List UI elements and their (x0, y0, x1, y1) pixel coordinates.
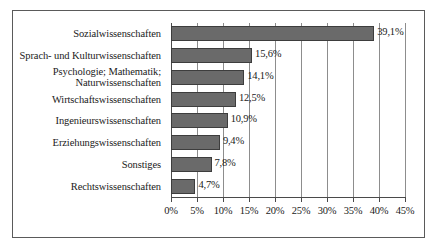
chart-frame: SozialwissenschaftenSprach- und Kulturwi… (12, 10, 425, 238)
bar-row: 9,4% (171, 132, 405, 154)
x-axis-tick-label: 20% (266, 205, 285, 216)
category-label: Erziehungswissenschaften (53, 137, 161, 148)
bar-row: 7,8% (171, 154, 405, 176)
category-label: Sonstiges (122, 159, 161, 170)
x-axis-line (171, 197, 405, 198)
category-label: Sozialwissenschaften (73, 28, 161, 39)
bar-row: 15,6% (171, 45, 405, 67)
bar-value-label: 14,1% (247, 70, 273, 81)
x-axis-tick-label: 30% (318, 205, 337, 216)
x-axis-tick (223, 197, 224, 202)
x-axis-tick (197, 197, 198, 202)
bar (171, 70, 244, 85)
bar (171, 157, 212, 172)
bar-value-label: 9,4% (223, 135, 244, 146)
x-axis-tick (275, 197, 276, 202)
x-axis-tick-label: 15% (240, 205, 259, 216)
x-axis-tick (301, 197, 302, 202)
bar-value-label: 4,7% (198, 179, 219, 190)
bar-value-label: 39,1% (377, 26, 403, 37)
bar-row: 4,7% (171, 175, 405, 197)
x-axis-tick-label: 10% (214, 205, 233, 216)
category-axis-labels: SozialwissenschaftenSprach- und Kulturwi… (13, 23, 169, 197)
bar-value-label: 12,5% (239, 92, 265, 103)
bar-value-label: 10,9% (231, 113, 257, 124)
bar-value-label: 7,8% (215, 157, 236, 168)
plot-area: 39,1%15,6%14,1%12,5%10,9%9,4%7,8%4,7% 0%… (171, 23, 405, 197)
category-label: Ingenieurswissenschaften (56, 115, 161, 126)
bar-row: 10,9% (171, 110, 405, 132)
x-axis-tick (405, 197, 406, 202)
gridline (405, 23, 406, 197)
x-axis-tick-label: 25% (292, 205, 311, 216)
bar (171, 48, 252, 63)
category-label: Psychologie; Mathematik; Naturwissenscha… (53, 66, 161, 88)
bar-value-label: 15,6% (255, 48, 281, 59)
bar-row: 39,1% (171, 23, 405, 45)
bar (171, 135, 220, 150)
x-axis-tick (249, 197, 250, 202)
x-axis-tick-label: 5% (190, 205, 204, 216)
x-axis-tick (379, 197, 380, 202)
bar (171, 26, 374, 41)
x-axis-tick (171, 197, 172, 202)
bar (171, 179, 195, 194)
x-axis-tick-label: 40% (370, 205, 389, 216)
x-axis-tick (353, 197, 354, 202)
x-axis-tick (327, 197, 328, 202)
category-label: Rechtswissenschaften (71, 181, 161, 192)
bar-row: 12,5% (171, 88, 405, 110)
category-label: Sprach- und Kulturwissenschaften (20, 50, 161, 61)
x-axis-tick-label: 0% (164, 205, 178, 216)
bar (171, 113, 228, 128)
x-axis-tick-label: 35% (344, 205, 363, 216)
category-label: Wirtschaftswissenschaften (52, 94, 161, 105)
bar-row: 14,1% (171, 67, 405, 89)
x-axis-tick-label: 45% (396, 205, 415, 216)
bar (171, 92, 236, 107)
